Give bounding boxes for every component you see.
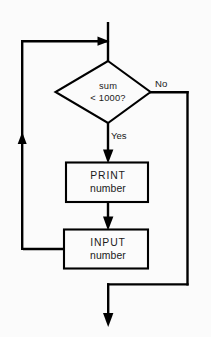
edge-label-no: No <box>155 78 167 89</box>
print-text-line-1: PRINT <box>90 170 126 181</box>
decision-text-line-2: < 1000? <box>90 93 125 103</box>
input-text-line-2: number <box>90 250 126 261</box>
edge-label-yes: Yes <box>111 130 127 141</box>
flowchart-canvas: sum < 1000? No Yes PRINT number INPUT nu… <box>0 0 211 337</box>
print-text-line-2: number <box>90 183 126 194</box>
input-text-line-1: INPUT <box>90 237 126 248</box>
arrow-exit-down-head <box>103 313 113 327</box>
arrow-loop-up-head <box>18 132 27 144</box>
arrow-print-to-input-head <box>103 217 113 231</box>
process-print-number <box>66 163 148 203</box>
arrow-yes-down-head <box>103 150 113 164</box>
flowchart-diagram: sum < 1000? No Yes PRINT number INPUT nu… <box>0 0 211 337</box>
decision-text-line-1: sum <box>99 81 117 91</box>
